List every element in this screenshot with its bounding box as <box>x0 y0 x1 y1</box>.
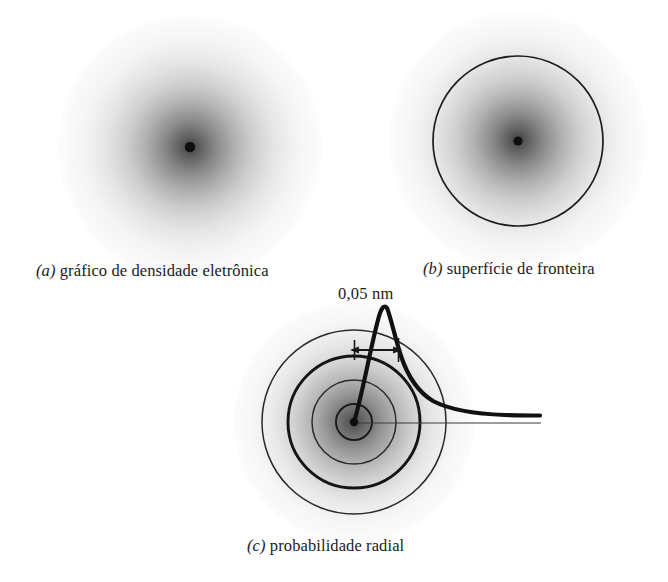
panel-mark-c: (c) <box>247 536 266 555</box>
caption-text-b: superfície de fronteira <box>443 259 595 278</box>
nucleus-dot-b <box>513 136 522 145</box>
caption-panel-c: (c) probabilidade radial <box>247 537 404 556</box>
panel-mark-a: (a) <box>36 261 56 280</box>
caption-text-a: gráfico de densidade eletrônica <box>56 261 269 280</box>
caption-panel-a: (a) gráfico de densidade eletrônica <box>36 262 269 281</box>
figure-root: 0,05 nm (a) gráfico de densidade eletrôn… <box>0 0 668 582</box>
nucleus-dot-c <box>350 418 358 426</box>
panel-mark-b: (b) <box>423 259 443 278</box>
dimension-label: 0,05 nm <box>338 284 393 304</box>
caption-text-c: probabilidade radial <box>266 536 405 555</box>
caption-panel-b: (b) superfície de fronteira <box>423 260 595 279</box>
nucleus-dot-a <box>185 142 195 152</box>
radial-probability-curve <box>354 307 540 423</box>
figure-vector-overlay <box>0 0 668 582</box>
